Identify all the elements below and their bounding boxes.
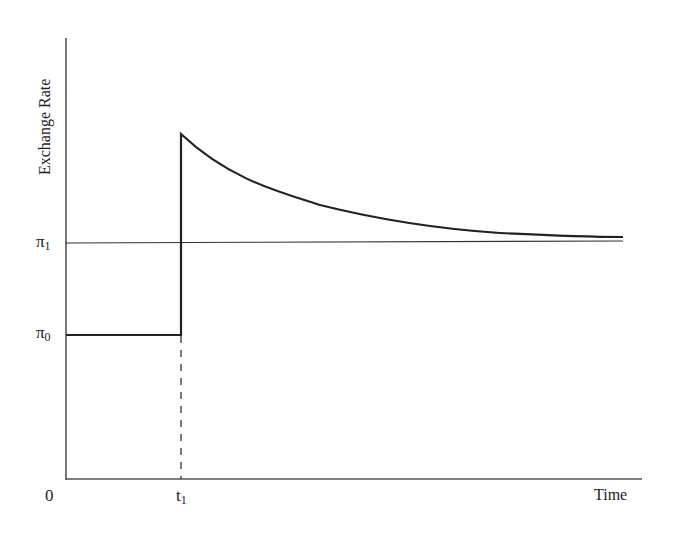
pi1-symbol: π (36, 232, 45, 251)
pi0-tick-label: π0 (36, 324, 51, 343)
t1-tick-label: t1 (176, 487, 187, 506)
x-axis-label: Time (594, 487, 627, 503)
t1-subscript: 1 (181, 493, 187, 507)
pi1-tick-label: π1 (36, 233, 51, 252)
chart-plot (0, 0, 675, 534)
exchange-rate-path (66, 134, 623, 335)
pi0-subscript: 0 (45, 330, 51, 344)
pi1-subscript: 1 (45, 239, 51, 253)
y-axis-label: Exchange Rate (36, 79, 54, 175)
origin-label: 0 (45, 487, 54, 504)
pi1-level-line (66, 241, 623, 243)
pi0-symbol: π (36, 323, 45, 342)
